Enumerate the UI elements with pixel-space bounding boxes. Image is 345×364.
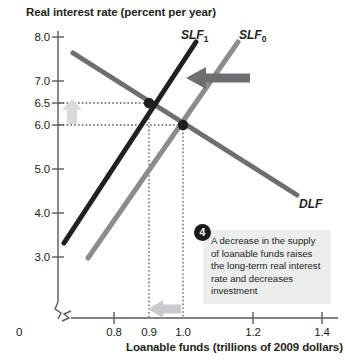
investment-decrease-arrow (148, 300, 181, 318)
chart-canvas (0, 0, 345, 364)
equilibrium-point-old (178, 120, 188, 130)
equilibrium-point-new (144, 98, 154, 108)
axis-break-x (62, 311, 71, 321)
loanable-funds-chart: Real interest rate (percent per year) Lo… (0, 0, 345, 364)
curve-slf1 (64, 42, 196, 243)
axis-break-y (55, 302, 61, 319)
